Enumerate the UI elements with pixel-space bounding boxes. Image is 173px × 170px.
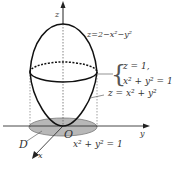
z-axis-arrow-icon bbox=[61, 1, 66, 8]
leader-lower-surface bbox=[90, 95, 104, 98]
intersection-label-line1: z = 1, bbox=[123, 62, 150, 71]
intersection-ellipse-front bbox=[30, 72, 97, 82]
y-axis-label: y bbox=[140, 130, 145, 138]
lower-surface-label: z = x² + y² bbox=[108, 89, 157, 98]
region-boundary-label: x² + y² = 1 bbox=[73, 140, 123, 149]
origin-label: O bbox=[64, 129, 73, 140]
x-axis-label: x bbox=[38, 152, 43, 160]
diagram-canvas: z z=2−x²−y² { z = 1, x² + y² = 1 z = x² … bbox=[0, 0, 173, 170]
region-d-label: D bbox=[19, 139, 28, 150]
upper-surface-label: z=2−x²−y² bbox=[87, 31, 132, 39]
intersection-ellipse-back bbox=[30, 62, 97, 72]
leader-region bbox=[27, 131, 42, 141]
y-axis-arrow-icon bbox=[143, 124, 150, 129]
intersection-label-line2: x² + y² = 1 bbox=[123, 77, 173, 86]
z-axis-label: z bbox=[55, 11, 59, 19]
